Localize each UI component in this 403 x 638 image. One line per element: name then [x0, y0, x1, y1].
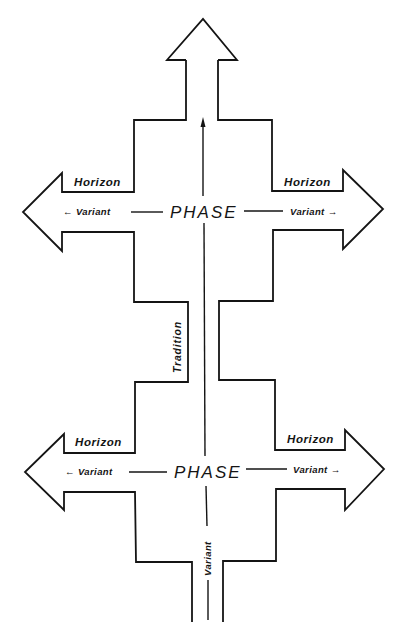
lower-left-horizon-label: Horizon: [75, 436, 122, 448]
upper-left-horizon-label: Horizon: [74, 176, 121, 188]
lower-phase-label: PHASE: [174, 463, 242, 482]
upper-right-variant-label: Variant →: [290, 206, 338, 217]
upper-phase-group: Horizon Horizon ← Variant PHASE Variant …: [63, 176, 338, 222]
lower-left-variant-label: ← Variant: [65, 466, 113, 477]
arrowhead-up-icon: [201, 117, 206, 127]
trunk-segment-middle: [204, 223, 205, 456]
trunk-variant-label: Variant: [202, 541, 213, 576]
tradition-label: Tradition: [171, 321, 183, 373]
trunk-segment-lower: [206, 486, 207, 526]
upper-right-horizon-label: Horizon: [284, 176, 331, 188]
lower-right-variant-label: Variant →: [293, 464, 341, 475]
upper-left-variant-label: ← Variant: [63, 206, 111, 217]
right-outline: [218, 60, 384, 622]
lower-phase-group: Horizon Horizon ← Variant PHASE Variant …: [65, 433, 341, 482]
tradition-phase-diagram: Horizon Horizon ← Variant PHASE Variant …: [0, 0, 403, 638]
upper-phase-label: PHASE: [170, 203, 238, 222]
lower-right-horizon-label: Horizon: [287, 433, 334, 445]
